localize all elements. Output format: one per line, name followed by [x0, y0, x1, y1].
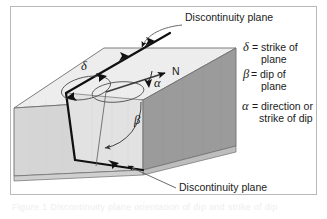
rock-block [14, 48, 236, 181]
legend-delta-line2: plane [261, 53, 287, 65]
legend-entry-delta: δ = strike of plane [243, 40, 298, 65]
north-label: N [172, 65, 180, 77]
discontinuity-plane-diagram: N α β δ Discontinuity plane Discontinuit… [0, 0, 327, 219]
bottom-callout-label: Discontinuity plane [179, 181, 267, 193]
alpha-symbol-inline: α [154, 76, 161, 90]
delta-symbol: δ [81, 59, 87, 73]
legend-entry-beta: β = dip of plane [242, 67, 287, 92]
legend-entry-alpha: α = direction or strike of dip [242, 99, 313, 124]
legend-beta-symbol: β [242, 67, 250, 81]
figure-caption-faint: Figure 1 Discontinuity plane orientation… [12, 200, 315, 214]
figure-root: N α β δ Discontinuity plane Discontinuit… [0, 0, 327, 219]
legend-beta-line1: dip of [260, 68, 286, 80]
beta-symbol: β [133, 113, 141, 127]
legend-alpha-eq: = [252, 100, 258, 112]
legend-delta-symbol: δ [243, 40, 249, 54]
legend-delta-line1: strike of [261, 41, 298, 53]
top-callout-label: Discontinuity plane [185, 11, 273, 23]
legend-beta-eq: = [251, 68, 257, 80]
legend: δ = strike of plane β = dip of plane α =… [242, 40, 313, 124]
legend-delta-eq: = [252, 41, 258, 53]
legend-alpha-symbol: α [242, 99, 249, 113]
legend-alpha-line1: direction or [261, 100, 313, 112]
legend-alpha-line2: strike of dip [259, 112, 313, 124]
legend-beta-line2: plane [261, 80, 287, 92]
